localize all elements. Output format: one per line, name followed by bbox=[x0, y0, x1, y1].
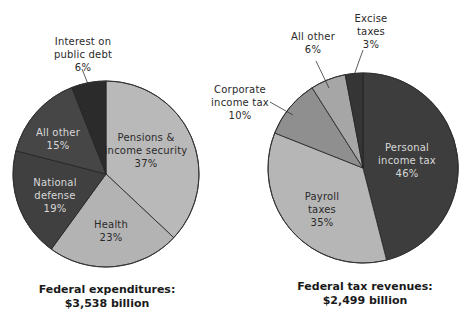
label-value: 46% bbox=[378, 167, 436, 180]
label-excise-taxes: Excise taxes 3% bbox=[355, 12, 388, 51]
label-value: 15% bbox=[36, 139, 80, 152]
label-text: income tax bbox=[378, 154, 436, 167]
label-national-defense: National defense 19% bbox=[33, 176, 76, 215]
label-value: 23% bbox=[94, 231, 128, 244]
label-text: taxes bbox=[305, 203, 340, 216]
caption-total: $2,499 billion bbox=[297, 294, 433, 308]
label-payroll-taxes: Payroll taxes 35% bbox=[305, 190, 340, 229]
label-text: Payroll bbox=[305, 190, 340, 203]
label-text: income tax bbox=[211, 96, 269, 109]
label-text: National bbox=[33, 176, 76, 189]
label-pensions: Pensions & income security 37% bbox=[105, 131, 188, 170]
caption-expenditures: Federal expenditures: $3,538 billion bbox=[39, 283, 176, 311]
label-text: All other bbox=[291, 30, 335, 43]
caption-title: Federal tax revenues: bbox=[297, 280, 433, 294]
label-value: 37% bbox=[105, 157, 188, 170]
label-value: 3% bbox=[355, 38, 388, 51]
label-text: Corporate bbox=[211, 83, 269, 96]
label-corporate-income-tax: Corporate income tax 10% bbox=[211, 83, 269, 122]
label-text: All other bbox=[36, 126, 80, 139]
label-value: 35% bbox=[305, 216, 340, 229]
label-interest: Interest on public debt 6% bbox=[54, 35, 112, 74]
label-all-other-revenues: All other 6% bbox=[291, 30, 335, 56]
label-text: Interest on bbox=[54, 35, 112, 48]
label-all-other-expenditures: All other 15% bbox=[36, 126, 80, 152]
label-text: Pensions & bbox=[105, 131, 188, 144]
caption-revenues: Federal tax revenues: $2,499 billion bbox=[297, 280, 433, 308]
label-text: Personal bbox=[378, 141, 436, 154]
caption-total: $3,538 billion bbox=[39, 297, 176, 311]
label-text: Excise bbox=[355, 12, 388, 25]
label-value: 10% bbox=[211, 109, 269, 122]
label-value: 6% bbox=[54, 61, 112, 74]
label-text: public debt bbox=[54, 48, 112, 61]
label-personal-income-tax: Personal income tax 46% bbox=[378, 141, 436, 180]
label-text: defense bbox=[33, 189, 76, 202]
label-value: 6% bbox=[291, 43, 335, 56]
label-text: taxes bbox=[355, 25, 388, 38]
label-value: 19% bbox=[33, 202, 76, 215]
label-text: income security bbox=[105, 144, 188, 157]
label-health: Health 23% bbox=[94, 218, 128, 244]
label-text: Health bbox=[94, 218, 128, 231]
caption-title: Federal expenditures: bbox=[39, 283, 176, 297]
